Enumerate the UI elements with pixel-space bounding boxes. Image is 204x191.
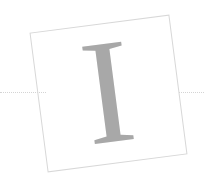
serif-letter-i-glyph: I <box>76 30 141 152</box>
dotted-rule-right-segment <box>179 92 204 93</box>
glyph-container: I <box>30 15 186 171</box>
illustration-canvas: I <box>0 0 204 191</box>
